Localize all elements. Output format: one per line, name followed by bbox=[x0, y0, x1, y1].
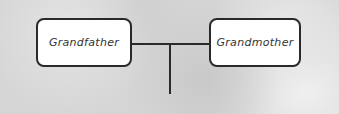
grandmother-label: Grandmother bbox=[216, 36, 293, 49]
grandfather-node: Grandfather bbox=[36, 18, 132, 67]
grandmother-node: Grandmother bbox=[209, 18, 301, 67]
descent-line bbox=[169, 43, 171, 94]
grandfather-label: Grandfather bbox=[49, 36, 119, 49]
